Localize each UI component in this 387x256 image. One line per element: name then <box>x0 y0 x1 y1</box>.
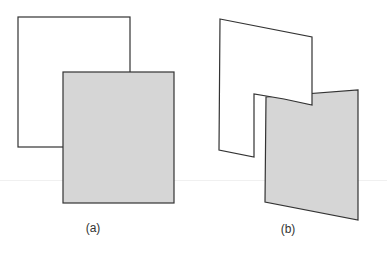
panel-b-back-parallelogram <box>265 90 358 220</box>
panel-b <box>219 19 358 220</box>
panel-b-label: (b) <box>281 222 296 236</box>
diagram-canvas <box>0 0 387 256</box>
panel-a <box>18 17 174 203</box>
panel-a-label: (a) <box>86 221 101 235</box>
panel-a-front-rectangle <box>63 72 174 203</box>
